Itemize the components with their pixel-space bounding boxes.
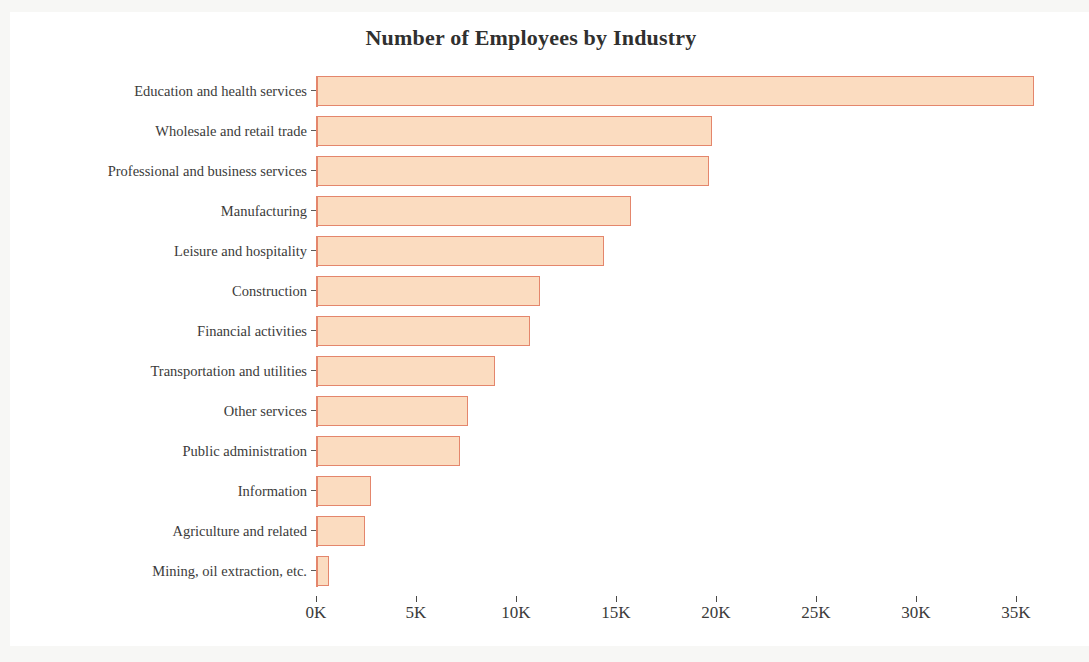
x-axis-tick-label: 0K [286, 603, 346, 623]
x-axis-tick [616, 596, 617, 602]
bar[interactable] [316, 76, 1034, 106]
chart-page: Number of Employees by Industry Educatio… [0, 0, 1089, 662]
bar-chart: Number of Employees by Industry Educatio… [0, 0, 1089, 662]
bar-row: Other services [316, 396, 1046, 436]
bar-baseline-edge [316, 157, 318, 187]
bar-row: Financial activities [316, 316, 1046, 356]
category-label: Professional and business services [56, 156, 316, 196]
x-axis-tick [916, 596, 917, 602]
bar-baseline-edge [316, 277, 318, 307]
category-label: Information [56, 476, 316, 516]
bar[interactable] [316, 196, 631, 226]
x-axis-tick-label: 25K [786, 603, 846, 623]
bar-row: Information [316, 476, 1046, 516]
category-label: Construction [56, 276, 316, 316]
bar[interactable] [316, 236, 604, 266]
category-label: Education and health services [56, 76, 316, 116]
x-axis-tick [316, 596, 317, 602]
x-axis-tick-label: 30K [886, 603, 946, 623]
category-label: Agriculture and related [56, 516, 316, 556]
x-axis-tick-label: 15K [586, 603, 646, 623]
bar[interactable] [316, 116, 712, 146]
x-axis-tick-label: 20K [686, 603, 746, 623]
bar[interactable] [316, 516, 365, 546]
x-axis-tick [416, 596, 417, 602]
bar-row: Professional and business services [316, 156, 1046, 196]
category-label: Leisure and hospitality [56, 236, 316, 276]
bar-row: Education and health services [316, 76, 1046, 116]
bar-row: Public administration [316, 436, 1046, 476]
bar[interactable] [316, 276, 540, 306]
x-axis: 0K5K10K15K20K25K30K35K [316, 596, 1056, 636]
x-axis-tick [516, 596, 517, 602]
bar-baseline-edge [316, 317, 318, 347]
bar-row: Leisure and hospitality [316, 236, 1046, 276]
bar-baseline-edge [316, 357, 318, 387]
bar[interactable] [316, 556, 329, 586]
category-label: Wholesale and retail trade [56, 116, 316, 156]
category-label: Other services [56, 396, 316, 436]
bar-baseline-edge [316, 237, 318, 267]
bar[interactable] [316, 436, 460, 466]
bar-row: Construction [316, 276, 1046, 316]
bar-row: Wholesale and retail trade [316, 116, 1046, 156]
bar-baseline-edge [316, 517, 318, 547]
category-label: Mining, oil extraction, etc. [56, 556, 316, 596]
bar[interactable] [316, 316, 530, 346]
chart-title: Number of Employees by Industry [0, 25, 1062, 51]
bar[interactable] [316, 396, 468, 426]
bar-row: Transportation and utilities [316, 356, 1046, 396]
bar-baseline-edge [316, 117, 318, 147]
bar-row: Manufacturing [316, 196, 1046, 236]
x-axis-tick-label: 5K [386, 603, 446, 623]
category-label: Public administration [56, 436, 316, 476]
x-axis-tick [716, 596, 717, 602]
x-axis-tick-label: 35K [986, 603, 1046, 623]
category-label: Manufacturing [56, 196, 316, 236]
bar-baseline-edge [316, 557, 318, 587]
plot-area: Education and health servicesWholesale a… [316, 76, 1046, 596]
category-label: Financial activities [56, 316, 316, 356]
bar[interactable] [316, 156, 709, 186]
bar-baseline-edge [316, 477, 318, 507]
bar[interactable] [316, 356, 495, 386]
x-axis-tick [816, 596, 817, 602]
x-axis-tick-label: 10K [486, 603, 546, 623]
bar-row: Agriculture and related [316, 516, 1046, 556]
category-label: Transportation and utilities [56, 356, 316, 396]
bar[interactable] [316, 476, 371, 506]
bar-baseline-edge [316, 397, 318, 427]
x-axis-tick [1016, 596, 1017, 602]
bar-row: Mining, oil extraction, etc. [316, 556, 1046, 596]
bar-baseline-edge [316, 197, 318, 227]
bar-baseline-edge [316, 437, 318, 467]
bar-baseline-edge [316, 77, 318, 107]
